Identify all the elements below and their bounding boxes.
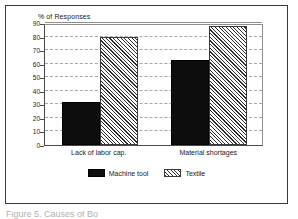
plot-area: [44, 24, 263, 146]
figure-caption-text: Figure 5. Causes of Bo: [6, 211, 98, 219]
figure-frame: % of Responses 0102030405060708090 Lack …: [5, 5, 288, 204]
legend-label-1: Machine tool: [109, 170, 149, 177]
bar-machine-tool-group-1: [62, 102, 100, 145]
x-axis: Lack of labor cap.Material shortages: [44, 149, 263, 161]
bar-machine-tool-group-2: [171, 60, 209, 145]
y-tick-label-70: 70: [33, 48, 40, 55]
y-tick-label-50: 50: [33, 75, 40, 82]
chart-legend: Machine toolTextile: [6, 169, 287, 177]
y-tick-label-30: 30: [33, 102, 40, 109]
y-tick-label-90: 90: [33, 21, 40, 28]
y-tick-label-10: 10: [33, 129, 40, 136]
solid-black-swatch: [88, 169, 105, 177]
y-tick-label-40: 40: [33, 89, 40, 96]
figure-caption-clipped: Figure 5. Causes of Bo: [6, 211, 292, 219]
bar-textile-group-2: [209, 26, 247, 145]
gridline-90: [45, 22, 262, 23]
x-category-label-1: Lack of labor cap.: [71, 149, 126, 156]
x-category-label-2: Material shortages: [179, 149, 237, 156]
hatched-swatch: [164, 169, 181, 177]
y-tick-label-60: 60: [33, 61, 40, 68]
legend-entry-2: Textile: [164, 169, 205, 177]
legend-label-2: Textile: [185, 170, 205, 177]
bar-textile-group-1: [100, 37, 138, 145]
y-axis-title: % of Responses: [38, 13, 90, 20]
y-tick-label-80: 80: [33, 34, 40, 41]
legend-entry-1: Machine tool: [88, 169, 149, 177]
y-tick-label-20: 20: [33, 116, 40, 123]
y-tick-mark-0: [40, 146, 44, 147]
